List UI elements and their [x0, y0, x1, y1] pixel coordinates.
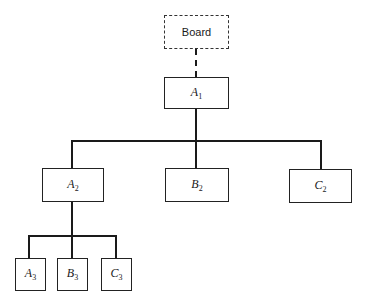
node-a1-label: A1 — [191, 85, 202, 101]
connector-a1-down — [195, 109, 197, 142]
connector-to-b3 — [71, 235, 73, 258]
node-b3-label: B3 — [67, 266, 78, 282]
node-a2: A2 — [42, 168, 104, 202]
connector-to-a3 — [28, 235, 30, 258]
connector-to-c2 — [320, 140, 322, 169]
node-a3: A3 — [15, 258, 46, 291]
connector-a2-down — [71, 202, 73, 236]
connector-board-a1 — [195, 49, 197, 77]
node-b3: B3 — [57, 258, 88, 291]
connector-to-a2 — [71, 140, 73, 168]
node-board-label: Board — [182, 26, 211, 38]
node-a1: A1 — [164, 77, 229, 109]
node-c3: C3 — [101, 258, 132, 291]
node-c2: C2 — [289, 169, 352, 203]
node-board: Board — [164, 15, 229, 49]
node-a3-label: A3 — [25, 266, 36, 282]
node-a2-label: A2 — [67, 177, 78, 193]
node-c2-label: C2 — [314, 178, 326, 194]
node-b2: B2 — [165, 168, 229, 202]
connector-to-b2 — [195, 140, 197, 168]
org-chart: Board A1 A2 B2 C2 A3 B3 C3 — [0, 0, 367, 306]
node-b2-label: B2 — [191, 177, 202, 193]
connector-to-c3 — [115, 235, 117, 258]
node-c3-label: C3 — [110, 266, 122, 282]
